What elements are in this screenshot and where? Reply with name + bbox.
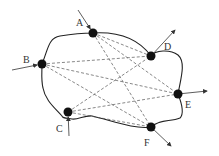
inflow-arrow-b-icon <box>12 65 37 70</box>
node-label-d: D <box>164 41 171 52</box>
node-label-c: C <box>56 123 63 134</box>
node-a <box>89 29 98 38</box>
network-diagram: ABCDEF <box>0 0 219 156</box>
connection-B-E <box>42 64 178 94</box>
connection-lines <box>42 33 178 127</box>
flow-arrows <box>12 10 207 146</box>
connection-A-D <box>93 33 151 56</box>
node-d <box>147 52 156 61</box>
region-boundary <box>42 33 183 128</box>
node-label-b: B <box>23 54 30 65</box>
node-e <box>174 90 183 99</box>
node-labels: ABCDEF <box>23 17 191 148</box>
nodes <box>38 29 183 132</box>
inflow-arrow-c-icon <box>68 117 69 136</box>
node-label-e: E <box>185 99 191 110</box>
connection-C-D <box>68 56 151 112</box>
node-b <box>38 60 47 69</box>
node-f <box>147 123 156 132</box>
node-label-a: A <box>76 17 84 28</box>
node-c <box>64 108 73 117</box>
connection-C-E <box>68 94 178 112</box>
node-label-f: F <box>144 137 150 148</box>
